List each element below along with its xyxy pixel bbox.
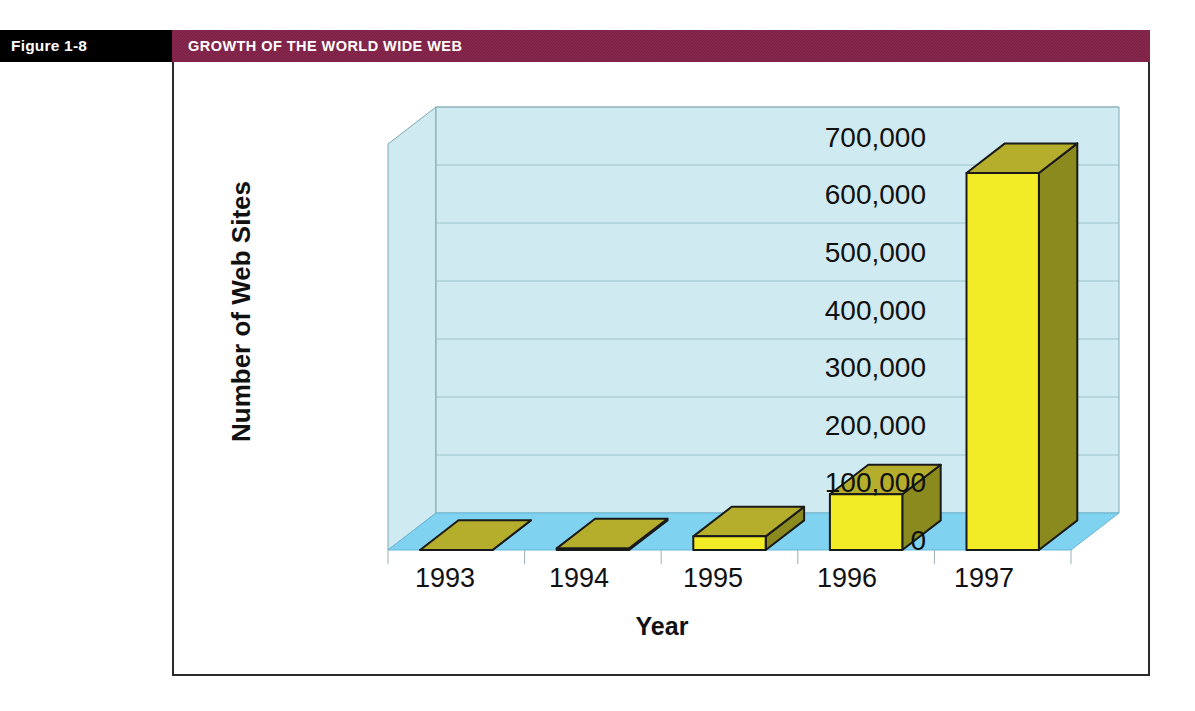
y-tick-label: 100,000 [756, 469, 926, 497]
chart-canvas: 700,000 600,000 500,000 400,000 300,000 … [174, 62, 1150, 674]
y-tick-label: 200,000 [756, 412, 926, 440]
y-tick-label: 400,000 [756, 297, 926, 325]
x-tick-label: 1997 [924, 565, 1044, 592]
figure-page: Figure 1-8 GROWTH OF THE WORLD WIDE WEB … [0, 0, 1195, 711]
figure-title: GROWTH OF THE WORLD WIDE WEB [172, 30, 1150, 62]
y-tick-label: 600,000 [756, 181, 926, 209]
x-tick-label: 1996 [787, 565, 907, 592]
y-tick-label: 300,000 [756, 354, 926, 382]
x-tick-label: 1994 [519, 565, 639, 592]
y-tick-label: 700,000 [756, 124, 926, 152]
axis-tick-marks [388, 550, 1071, 564]
figure-header-band: Figure 1-8 GROWTH OF THE WORLD WIDE WEB [0, 30, 1150, 62]
y-tick-label: 0 [756, 527, 926, 555]
y-tick-label: 500,000 [756, 239, 926, 267]
x-tick-label: 1995 [653, 565, 773, 592]
bar-1997 [967, 143, 1078, 550]
x-tick-label: 1993 [385, 565, 505, 592]
figure-number-tag: Figure 1-8 [0, 30, 172, 62]
x-axis-title: Year [174, 612, 1150, 641]
y-axis-title: Number of Web Sites [226, 112, 257, 512]
chart-frame: 700,000 600,000 500,000 400,000 300,000 … [172, 62, 1150, 676]
